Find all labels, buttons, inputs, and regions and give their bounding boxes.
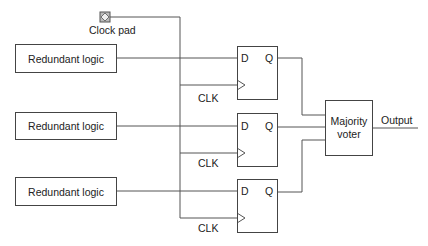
logic-label: Redundant logic bbox=[28, 186, 104, 198]
output-label: Output bbox=[381, 114, 413, 126]
clock-pad-label: Clock pad bbox=[89, 24, 136, 36]
voter-label-line1: Majority bbox=[331, 115, 368, 128]
redundant-logic-block-2: Redundant logic bbox=[15, 112, 117, 140]
ff2-clk-label: CLK bbox=[198, 157, 218, 169]
redundant-logic-block-3: Redundant logic bbox=[15, 177, 117, 206]
voter-label-line2: voter bbox=[331, 128, 368, 141]
majority-voter: Majority voter bbox=[325, 100, 373, 156]
ff1-q-label: Q bbox=[265, 52, 273, 64]
ff2-q-label: Q bbox=[265, 120, 273, 132]
logic-label: Redundant logic bbox=[28, 120, 104, 132]
ff3-q-label: Q bbox=[265, 185, 273, 197]
ff2-d-label: D bbox=[241, 120, 249, 132]
redundant-logic-block-1: Redundant logic bbox=[15, 44, 117, 73]
logic-label: Redundant logic bbox=[28, 53, 104, 65]
ff1-d-label: D bbox=[241, 52, 249, 64]
ff3-clk-label: CLK bbox=[198, 222, 218, 234]
ff3-d-label: D bbox=[241, 185, 249, 197]
clock-pad-icon bbox=[100, 12, 110, 22]
ff1-clk-label: CLK bbox=[198, 92, 218, 104]
